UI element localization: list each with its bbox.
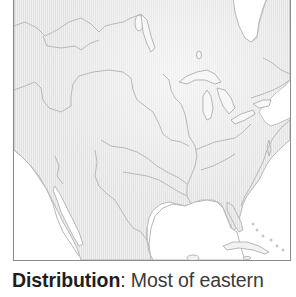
bahamas-island-2: [256, 229, 258, 231]
distribution-map: [13, 0, 291, 261]
distribution-caption: Distribution: Most of eastern: [12, 269, 296, 292]
caption-separator: :: [120, 269, 131, 291]
bahamas-island-6: [282, 249, 284, 251]
bahamas-island-5: [276, 245, 278, 247]
caption-label: Distribution: [12, 269, 120, 291]
yucatan-edge: [187, 255, 199, 260]
lake-nipigon: [197, 51, 202, 59]
jamaica: [243, 257, 251, 260]
map-graphic: [14, 0, 290, 260]
bahamas-island-1: [252, 223, 254, 225]
bahamas-island-4: [270, 239, 272, 241]
bahamas-island-3: [262, 235, 264, 237]
caption-text: Most of eastern: [131, 269, 264, 291]
